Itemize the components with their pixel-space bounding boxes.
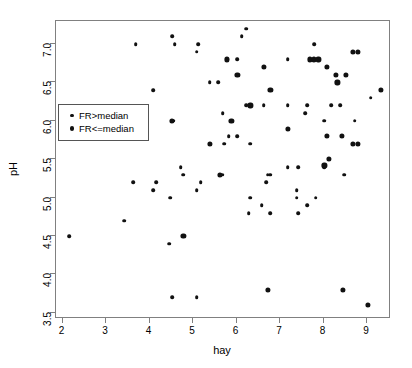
data-point xyxy=(235,72,240,77)
data-point xyxy=(286,165,290,169)
data-point xyxy=(365,303,370,308)
data-point xyxy=(195,188,199,192)
x-axis-tick-label: 2 xyxy=(59,325,65,337)
data-point xyxy=(261,64,266,69)
data-point xyxy=(170,35,174,39)
data-point xyxy=(181,233,186,238)
plot-area xyxy=(55,20,390,318)
data-point xyxy=(244,27,248,31)
data-point xyxy=(341,287,346,292)
y-axis-tick-label: 5.0 xyxy=(43,197,53,211)
data-point xyxy=(295,188,299,192)
x-axis-tick-label: 8 xyxy=(320,325,326,337)
data-point xyxy=(249,196,253,200)
legend-item: FR<=median xyxy=(65,122,142,135)
data-point xyxy=(369,96,373,100)
data-point xyxy=(170,118,175,123)
data-point xyxy=(316,57,321,62)
data-point xyxy=(240,35,244,39)
legend-marker-large-icon xyxy=(65,126,79,131)
data-point xyxy=(286,58,290,62)
data-point xyxy=(324,134,329,139)
x-axis-tick xyxy=(62,318,63,323)
data-point xyxy=(221,111,225,115)
data-point xyxy=(208,81,212,85)
data-point xyxy=(262,104,266,108)
data-point xyxy=(305,104,309,108)
y-axis-tick-label: 7.0 xyxy=(43,43,53,57)
data-point xyxy=(173,42,177,46)
data-point xyxy=(297,165,301,169)
data-point xyxy=(335,80,340,85)
data-point xyxy=(224,57,229,62)
data-point xyxy=(338,104,342,108)
data-point xyxy=(355,141,360,146)
data-point xyxy=(314,196,318,200)
scatter-plot-figure: 3.54.04.55.05.56.06.57.0 23456789 pH hay… xyxy=(0,0,412,368)
y-axis-tick-label: 4.0 xyxy=(43,273,53,287)
data-point xyxy=(286,104,290,108)
data-point xyxy=(264,180,268,184)
data-point xyxy=(285,126,290,131)
legend-item: FR>median xyxy=(65,109,142,122)
data-point xyxy=(179,165,183,169)
data-point xyxy=(236,58,240,62)
data-point xyxy=(195,296,199,300)
data-point xyxy=(196,42,200,46)
y-axis-tick-label: 3.5 xyxy=(43,312,53,326)
data-point xyxy=(134,42,138,46)
y-axis-tick-label: 6.0 xyxy=(43,120,53,134)
y-axis-tick-label: 6.5 xyxy=(43,81,53,95)
data-point xyxy=(207,141,212,146)
data-point xyxy=(182,173,186,177)
data-point xyxy=(355,49,360,54)
legend-label: FR>median xyxy=(79,110,128,121)
data-point xyxy=(343,173,347,177)
legend: FR>median FR<=median xyxy=(58,104,149,141)
x-axis-tick-label: 4 xyxy=(146,325,152,337)
data-point xyxy=(305,204,309,208)
x-axis-tick-label: 7 xyxy=(276,325,282,337)
x-axis-tick-label: 3 xyxy=(102,325,108,337)
data-point xyxy=(169,196,173,200)
data-point xyxy=(236,134,240,138)
data-point xyxy=(269,173,273,177)
data-point xyxy=(297,211,301,215)
data-point xyxy=(217,172,222,177)
data-point xyxy=(67,234,71,238)
x-axis-tick-label: 6 xyxy=(233,325,239,337)
data-point xyxy=(199,180,203,184)
data-point xyxy=(260,204,264,208)
data-point xyxy=(151,88,155,92)
data-point xyxy=(229,118,234,123)
data-point xyxy=(216,81,220,85)
data-point xyxy=(312,42,316,46)
x-axis-tick-label: 9 xyxy=(363,325,369,337)
data-point xyxy=(227,134,231,138)
data-point xyxy=(323,119,327,123)
x-axis-tick-label: 5 xyxy=(189,325,195,337)
data-point xyxy=(249,142,253,146)
data-point xyxy=(326,157,331,162)
data-point xyxy=(269,211,273,215)
data-points-layer xyxy=(56,21,389,317)
data-point xyxy=(248,103,253,108)
data-point xyxy=(333,72,338,77)
x-axis-tick xyxy=(192,318,193,323)
data-point xyxy=(170,296,174,300)
data-point xyxy=(123,219,127,223)
x-axis-tick xyxy=(366,318,367,323)
legend-label: FR<=median xyxy=(79,123,134,134)
x-axis-title: hay xyxy=(213,344,231,356)
data-point xyxy=(167,242,171,246)
x-axis-tick xyxy=(279,318,280,323)
y-axis-title: pH xyxy=(7,162,19,176)
x-axis-tick xyxy=(236,318,237,323)
data-point xyxy=(151,188,155,192)
data-point xyxy=(265,287,270,292)
y-axis-tick-label: 4.5 xyxy=(43,235,53,249)
data-point xyxy=(322,163,327,168)
data-point xyxy=(353,119,357,123)
data-point xyxy=(195,50,199,54)
data-point xyxy=(247,211,251,215)
